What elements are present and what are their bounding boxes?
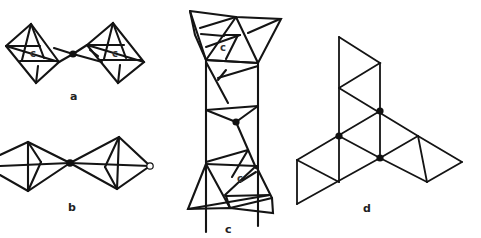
panel-label-b: b: [68, 201, 76, 214]
figure-canvas: c c a b: [0, 0, 481, 238]
panel-d: d: [297, 37, 462, 215]
shared-atom-node: [232, 118, 239, 125]
center-label-c: c: [30, 48, 36, 59]
center-label-c: c: [220, 42, 226, 53]
shared-atom-node: [66, 159, 74, 167]
panel-label-c: c: [225, 223, 232, 236]
panel-c: c c c: [188, 11, 281, 236]
shared-atom-node: [69, 50, 76, 57]
panel-label-d: d: [363, 202, 371, 215]
open-atom-node: [147, 163, 153, 169]
panel-a: c c a: [6, 23, 144, 103]
filled-node: [376, 154, 383, 161]
filled-node: [376, 107, 383, 114]
center-label-c: c: [112, 48, 118, 59]
panel-b: b: [0, 137, 153, 214]
center-label-c: c: [237, 173, 243, 184]
panel-label-a: a: [70, 90, 77, 103]
filled-node: [335, 132, 342, 139]
